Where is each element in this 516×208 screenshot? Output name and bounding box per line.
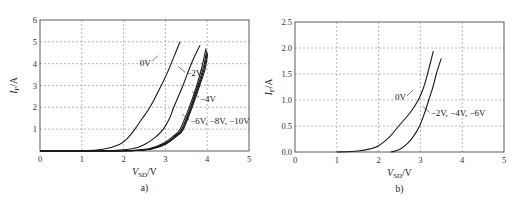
x-axis-label: VSD/V bbox=[132, 167, 156, 179]
y-axis-label-unit: /A bbox=[264, 79, 274, 89]
panel-label: a) bbox=[141, 183, 148, 194]
y-axis-label: IF/A bbox=[264, 79, 276, 97]
y-tick-label: 3 bbox=[33, 81, 37, 91]
y-tick-label: 1.5 bbox=[281, 69, 292, 79]
x-tick-label: 2 bbox=[121, 154, 125, 164]
annotation-label: 0V bbox=[140, 58, 152, 68]
annotation-leader bbox=[152, 56, 158, 62]
annotation-label: −2V, −4V, −6V bbox=[431, 108, 486, 118]
x-axis-label: VSD/V bbox=[387, 168, 411, 180]
annotation-leader bbox=[178, 66, 185, 72]
x-tick-label: 4 bbox=[460, 155, 465, 165]
x-tick-label: 2 bbox=[376, 155, 380, 165]
annotation-leader bbox=[407, 90, 413, 96]
annotation-label: −4V bbox=[200, 94, 217, 104]
x-tick-label: 4 bbox=[205, 154, 210, 164]
y-axis-label: IF/A bbox=[9, 77, 21, 95]
x-tick-label: 3 bbox=[418, 155, 422, 165]
annotation-label: −2V bbox=[186, 68, 203, 78]
y-tick-label: 6 bbox=[33, 15, 37, 25]
x-tick-label: 5 bbox=[247, 154, 251, 164]
panel-b: 0123450.00.51.01.52.02.5VSD/VIF/Ab)0V−2V… bbox=[264, 17, 506, 195]
x-tick-label: 0 bbox=[293, 155, 297, 165]
y-tick-label: 0.0 bbox=[281, 147, 292, 157]
annotation-label: −6V, −8V, −10V bbox=[190, 116, 250, 126]
y-tick-label: 0.5 bbox=[281, 121, 292, 131]
panel-label: b) bbox=[396, 184, 404, 195]
x-tick-label: 5 bbox=[502, 155, 506, 165]
x-tick-label: 3 bbox=[163, 154, 167, 164]
y-tick-label: 4 bbox=[33, 59, 38, 69]
x-tick-label: 1 bbox=[335, 155, 339, 165]
plot-frame bbox=[295, 22, 504, 152]
y-tick-label: 2.0 bbox=[281, 43, 292, 53]
chart-figure: 012345123456VSD/VIF/Aa)0V−2V−4V−6V, −8V,… bbox=[0, 0, 516, 208]
y-axis-label-unit: /A bbox=[9, 77, 19, 87]
x-axis-label-subscript: SD bbox=[138, 171, 147, 179]
y-tick-label: 2 bbox=[33, 102, 37, 112]
y-tick-label: 1.0 bbox=[281, 95, 292, 105]
x-tick-label: 0 bbox=[38, 154, 42, 164]
annotation-label: 0V bbox=[395, 92, 407, 102]
series-line-0v bbox=[337, 51, 434, 152]
x-axis-label-subscript: SD bbox=[393, 172, 402, 180]
y-tick-label: 2.5 bbox=[281, 17, 292, 27]
panel-a: 012345123456VSD/VIF/Aa)0V−2V−4V−6V, −8V,… bbox=[9, 15, 251, 194]
x-axis-label-unit: /V bbox=[147, 167, 157, 177]
x-tick-label: 1 bbox=[80, 154, 84, 164]
y-tick-label: 5 bbox=[33, 37, 37, 47]
series-line-2v4v6v bbox=[391, 58, 441, 152]
x-axis-label-unit: /V bbox=[402, 168, 412, 178]
y-tick-label: 1 bbox=[33, 124, 37, 134]
